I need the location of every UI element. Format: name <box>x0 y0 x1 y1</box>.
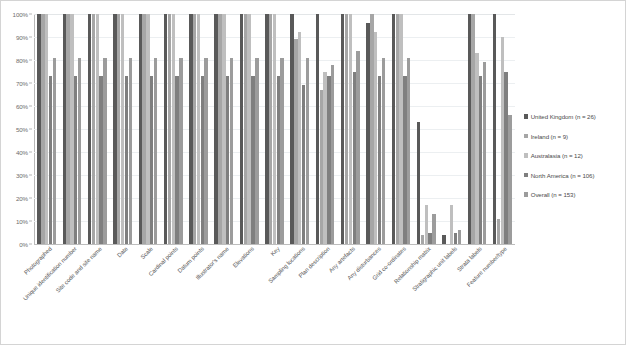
y-axis-tick-label: 60% <box>16 103 28 110</box>
legend-swatch-icon <box>524 173 528 177</box>
bar <box>204 58 207 244</box>
bar-group <box>237 14 262 244</box>
x-axis-tick-label-text: Date <box>116 246 129 259</box>
legend-label: Australasia (n = 12) <box>531 152 583 159</box>
legend-item[interactable]: Ireland (n = 9) <box>524 133 622 140</box>
bar <box>508 115 511 244</box>
bar <box>53 58 56 244</box>
plot-area <box>34 14 515 244</box>
legend-swatch-icon <box>524 134 528 138</box>
y-axis-tick-mark <box>29 106 32 107</box>
y-axis-tick-label: 80% <box>16 57 28 64</box>
legend-swatch-icon <box>524 192 528 196</box>
legend-swatch-icon <box>524 114 528 118</box>
y-axis-tick-label: 100% <box>13 11 28 18</box>
y-axis-tick-mark <box>29 129 32 130</box>
legend-label: Overall (n = 153) <box>531 191 576 198</box>
legend-item[interactable]: North America (n = 106) <box>524 172 622 179</box>
y-axis-tick-mark <box>29 221 32 222</box>
bar-group <box>439 14 464 244</box>
bar <box>154 58 157 244</box>
bar-group <box>388 14 413 244</box>
bar-group <box>85 14 110 244</box>
y-axis-tick-mark <box>29 152 32 153</box>
bar <box>417 122 420 244</box>
bar-group <box>34 14 59 244</box>
legend-item[interactable]: Overall (n = 153) <box>524 191 622 198</box>
y-axis-tick-label: 90% <box>16 34 28 41</box>
chart-figure: 0%10%20%30%40%50%60%70%80%90%100% Photog… <box>0 0 626 345</box>
y-axis-tick-mark <box>29 60 32 61</box>
x-axis-labels: PhotographedUnique identification number… <box>34 245 515 343</box>
y-axis-tick-mark <box>29 198 32 199</box>
legend-label: Ireland (n = 9) <box>531 133 568 140</box>
bar-group <box>363 14 388 244</box>
legend-label: United Kingdom (n = 26) <box>531 113 596 120</box>
bar-group <box>211 14 236 244</box>
bar-group <box>287 14 312 244</box>
y-axis-tick-label: 40% <box>16 149 28 156</box>
chart-legend: United Kingdom (n = 26)Ireland (n = 9)Au… <box>524 113 622 211</box>
y-axis-tick-label: 20% <box>16 195 28 202</box>
bar-group <box>414 14 439 244</box>
y-axis-tick-mark <box>29 175 32 176</box>
legend-item[interactable]: United Kingdom (n = 26) <box>524 113 622 120</box>
y-axis-tick-label: 30% <box>16 172 28 179</box>
bar-group <box>59 14 84 244</box>
bar <box>356 51 359 244</box>
bar-group <box>161 14 186 244</box>
bar-group <box>312 14 337 244</box>
y-axis-tick-mark <box>29 83 32 84</box>
legend-item[interactable]: Australasia (n = 12) <box>524 152 622 159</box>
y-axis-tick-label: 50% <box>16 126 28 133</box>
x-axis-tick-label-text: Stratigraphic unit labels <box>411 246 458 293</box>
y-axis-tick-mark <box>29 37 32 38</box>
y-axis-tick-label: 0% <box>19 241 28 248</box>
y-axis-tick-mark <box>29 14 32 15</box>
bar-groups <box>34 14 515 244</box>
x-axis-tick-label-text: Key <box>269 246 280 257</box>
bar <box>306 58 309 244</box>
x-axis-tick-label-text: Site code and site name <box>55 246 103 294</box>
bar-group <box>338 14 363 244</box>
bar <box>179 58 182 244</box>
bar <box>382 58 385 244</box>
bar-group <box>186 14 211 244</box>
y-axis-tick-label: 70% <box>16 80 28 87</box>
x-axis-tick-label-text: Scale <box>139 246 153 260</box>
legend-swatch-icon <box>524 153 528 157</box>
bar <box>78 58 81 244</box>
bar <box>230 58 233 244</box>
y-axis-tick-label: 10% <box>16 218 28 225</box>
y-axis-labels: 0%10%20%30%40%50%60%70%80%90%100% <box>1 14 32 244</box>
bar-group <box>262 14 287 244</box>
bar <box>280 58 283 244</box>
bar-group <box>464 14 489 244</box>
y-axis-tick-mark <box>29 244 32 245</box>
legend-label: North America (n = 106) <box>531 172 595 179</box>
x-axis-tick-label-text: Elevations <box>232 246 255 269</box>
